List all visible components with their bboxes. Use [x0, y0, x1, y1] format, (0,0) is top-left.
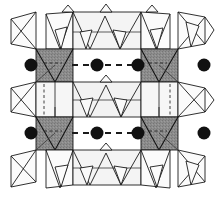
cation-circle	[132, 59, 145, 72]
cation-circle	[91, 59, 104, 72]
cation-circle	[91, 127, 104, 140]
polyhedron-face	[11, 12, 36, 49]
cation-circle	[25, 59, 38, 72]
polyhedron-face	[178, 82, 205, 117]
cation-circle	[198, 59, 211, 72]
crystal-structure-figure	[0, 0, 221, 198]
polyhedron-face	[11, 82, 36, 117]
cation-circle	[25, 127, 38, 140]
cation-circle	[198, 127, 211, 140]
polyhedron-face	[141, 82, 178, 117]
cation-circle	[132, 127, 145, 140]
crystal-structure-drawing	[0, 0, 221, 198]
polyhedron-face	[36, 82, 73, 117]
